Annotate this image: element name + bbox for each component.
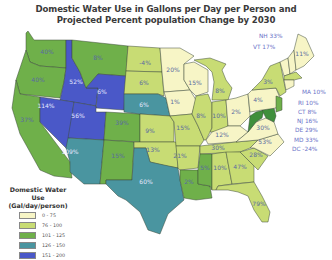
legend-swatch — [19, 242, 36, 249]
label-TX: 60% — [139, 178, 153, 185]
legend-title-line-1: Domestic Water Use — [3, 186, 73, 202]
label-IL: 8% — [196, 112, 206, 119]
label-NV: 114% — [37, 102, 54, 109]
label-PA: 4% — [253, 96, 263, 103]
label-FL: 79% — [252, 200, 266, 207]
legend-range: 76 - 100 — [42, 223, 62, 228]
label-VA: 30% — [256, 124, 270, 131]
label-WA: 40% — [40, 48, 54, 55]
legend-item-126-150: 126 - 150 — [19, 240, 83, 250]
label-KS: 9% — [145, 127, 155, 134]
state-MS — [198, 154, 212, 190]
label-CO: 39% — [115, 119, 129, 126]
legend-swatch — [19, 222, 36, 229]
label-TN: 30% — [211, 144, 225, 151]
state-CO — [104, 112, 140, 142]
label-NY: 3% — [263, 78, 273, 85]
side-label-MD: MD 33% — [294, 137, 318, 143]
label-SD: 6% — [139, 79, 149, 86]
label-LA: 2% — [184, 178, 194, 185]
state-CT — [284, 80, 294, 90]
side-label-CT: CT 8% — [298, 109, 317, 115]
label-OH: 2% — [231, 108, 241, 115]
label-MS: 5% — [200, 164, 210, 171]
side-label-VT: VT 17% — [253, 44, 275, 50]
side-label-NJ: NJ 16% — [297, 118, 318, 124]
label-CA: 37% — [20, 116, 34, 123]
legend-title: Domestic Water Use (Gal/day/person) — [3, 186, 73, 210]
label-IA: 1% — [170, 98, 180, 105]
label-GA: 47% — [233, 163, 247, 170]
label-MO: 15% — [176, 124, 190, 131]
label-OK: 13% — [146, 146, 160, 153]
side-label-DC: DC -24% — [292, 146, 317, 152]
side-label-DE: DE 29% — [295, 127, 318, 133]
legend: Domestic Water Use (Gal/day/person) 0 - … — [3, 186, 83, 260]
label-UT: 56% — [71, 112, 85, 119]
legend-item-76-100: 76 - 100 — [19, 220, 83, 230]
label-WY: 6% — [97, 88, 107, 95]
label-AL: 10% — [213, 164, 227, 171]
legend-swatch — [19, 232, 36, 239]
label-KY: 12% — [215, 131, 229, 138]
legend-item-151-200: 151 - 200 — [19, 250, 83, 260]
label-NE: 6% — [139, 101, 149, 108]
state-NJ — [276, 96, 282, 112]
label-SC: 28% — [249, 151, 263, 158]
label-MT: 8% — [93, 54, 103, 61]
label-MI: 8% — [215, 87, 225, 94]
label-ME: 11% — [295, 50, 309, 57]
legend-item-0-75: 0 - 75 — [19, 210, 83, 220]
legend-range: 101 - 125 — [42, 233, 65, 238]
side-label-RI: RI 10% — [298, 100, 318, 106]
label-ND: -4% — [139, 59, 151, 66]
side-label-MA: MA 10% — [302, 89, 326, 95]
legend-title-line-2: (Gal/day/person) — [3, 202, 73, 210]
label-ID: 52% — [69, 78, 83, 85]
legend-range: 0 - 75 — [42, 213, 56, 218]
label-AR: 21% — [173, 152, 187, 159]
label-NM: 15% — [111, 152, 125, 159]
label-MN: 20% — [166, 66, 180, 73]
legend-item-101-125: 101 - 125 — [19, 230, 83, 240]
side-label-NH: NH 33% — [259, 33, 282, 39]
label-IN: 10% — [212, 112, 226, 119]
legend-swatch — [19, 212, 36, 219]
legend-swatch — [19, 252, 36, 259]
legend-range: 126 - 150 — [42, 243, 65, 248]
label-OR: 40% — [31, 76, 45, 83]
label-AZ: 109% — [61, 148, 78, 155]
state-NM — [100, 140, 134, 184]
label-NC: 53% — [258, 138, 272, 145]
label-WI: 15% — [188, 79, 202, 86]
legend-range: 151 - 200 — [42, 253, 65, 258]
